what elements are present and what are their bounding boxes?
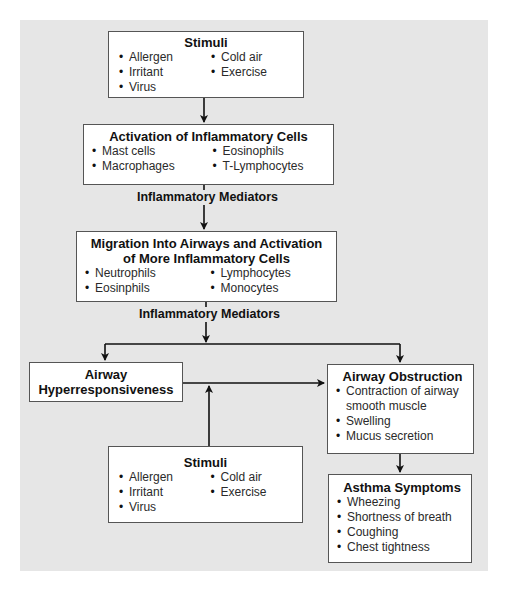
activation-col1: Mast cells Macrophages [92, 144, 213, 174]
list-item: Allergen [119, 50, 211, 65]
list-item: Mast cells [92, 144, 213, 159]
list-item: Irritant [119, 485, 211, 500]
symptoms-list: Wheezing Shortness of breath Coughing Ch… [337, 495, 467, 555]
list-item: Exercise [211, 65, 303, 80]
list-item: Neutrophils [85, 266, 211, 281]
list-item: T-Lymphocytes [213, 159, 334, 174]
stimuli-top-col1: Allergen Irritant Virus [119, 50, 211, 95]
hyperresponsiveness-box: Airway Hyperresponsiveness [29, 362, 183, 402]
stimuli-top-col2: Cold air Exercise [211, 50, 303, 95]
obstruction-box: Airway Obstruction Contraction of airway… [327, 364, 474, 454]
stimuli-bottom-col1: Allergen Irritant Virus [119, 470, 211, 515]
obstruction-list: Contraction of airway smooth muscle Swel… [336, 384, 469, 444]
migration-title-line1: Migration Into Airways and Activation [77, 236, 336, 251]
list-item: Exercise [211, 485, 303, 500]
list-item: Contraction of airway smooth muscle [336, 384, 464, 414]
list-item: Monocytes [211, 281, 337, 296]
symptoms-title: Asthma Symptoms [337, 480, 467, 495]
list-item: Virus [119, 500, 211, 515]
list-item: Irritant [119, 65, 211, 80]
stimuli-bottom-box: Stimuli Allergen Irritant Virus Cold air… [108, 446, 303, 523]
list-item: Swelling [336, 414, 469, 429]
migration-col1: Neutrophils Eosinphils [85, 266, 211, 296]
activation-box: Activation of Inflammatory Cells Mast ce… [83, 124, 334, 185]
migration-title-line2: of More Inflammatory Cells [77, 251, 336, 266]
mediators-label-2: Inflammatory Mediators [137, 307, 282, 322]
stimuli-top-title: Stimuli [109, 35, 303, 50]
migration-col2: Lymphocytes Monocytes [211, 266, 337, 296]
obstruction-title: Airway Obstruction [336, 369, 469, 384]
activation-title: Activation of Inflammatory Cells [84, 129, 333, 144]
hyperresponsiveness-title-line2: Hyperresponsiveness [30, 382, 182, 397]
list-item: Eosinphils [85, 281, 211, 296]
symptoms-box: Asthma Symptoms Wheezing Shortness of br… [328, 474, 472, 563]
stimuli-top-box: Stimuli Allergen Irritant Virus Cold air… [108, 31, 304, 98]
list-item: Chest tightness [337, 540, 467, 555]
list-item: Coughing [337, 525, 467, 540]
migration-box: Migration Into Airways and Activation of… [76, 231, 337, 302]
list-item: Cold air [211, 470, 303, 485]
hyperresponsiveness-title-line1: Airway [30, 367, 182, 382]
list-item: Cold air [211, 50, 303, 65]
list-item: Eosinophils [213, 144, 334, 159]
list-item: Shortness of breath [337, 510, 467, 525]
stimuli-bottom-title: Stimuli [109, 455, 302, 470]
list-item: Allergen [119, 470, 211, 485]
mediators-label-1: Inflammatory Mediators [135, 190, 280, 205]
stimuli-bottom-col2: Cold air Exercise [211, 470, 303, 515]
list-item: Wheezing [337, 495, 467, 510]
activation-col2: Eosinophils T-Lymphocytes [213, 144, 334, 174]
list-item: Mucus secretion [336, 429, 469, 444]
list-item: Lymphocytes [211, 266, 337, 281]
list-item: Macrophages [92, 159, 213, 174]
list-item: Virus [119, 80, 211, 95]
